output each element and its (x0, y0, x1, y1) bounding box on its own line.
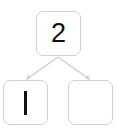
whole-value: 2 (51, 20, 66, 47)
part-box-left[interactable]: 1 (3, 80, 48, 125)
part-left-value: 1 (24, 91, 27, 115)
connector-left (27, 57, 58, 79)
one-glyph (24, 91, 27, 115)
part-box-right[interactable] (68, 80, 113, 125)
whole-box[interactable]: 2 (36, 11, 81, 56)
connector-right (58, 57, 89, 79)
